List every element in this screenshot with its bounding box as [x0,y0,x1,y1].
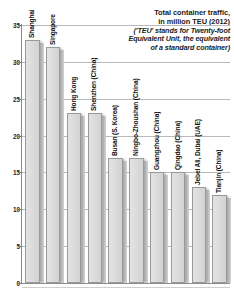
y-tick-label-35: 35 [0,22,20,29]
bar-category-label: Busan (S. Korea) [111,105,118,156]
bar-category-label: Ningbo-Zhoushan (China) [132,78,139,156]
bar[interactable] [192,187,207,283]
y-tick-label-15: 15 [0,169,20,176]
bar-group: Shanghai [22,25,43,283]
bar-group: Hong Kong [64,25,85,283]
bar[interactable] [25,40,40,283]
gridline-0 [22,283,230,284]
bar-category-label: Shanghai [28,9,35,37]
bar-category-label: Tianjin (China) [215,149,222,192]
bar[interactable] [108,158,123,283]
bar-category-label: Shenzhen (China) [90,58,97,111]
y-tick-label-10: 10 [0,206,20,213]
bar[interactable] [171,172,186,283]
bar-group: Qingdao (China) [168,25,189,283]
bar-category-label: Hong Kong [70,77,77,111]
bar[interactable] [212,195,227,283]
bar-shadow [227,198,231,283]
y-tick-label-30: 30 [0,58,20,65]
plot-area: ShanghaiSingaporeHong KongShenzhen (Chin… [22,25,230,283]
footer-rule [22,287,230,288]
bar[interactable] [88,113,103,283]
container-traffic-bar-chart: Total container traffic, in million TEU … [0,0,234,295]
bar-group: Guangzhou (China) [147,25,168,283]
bar-category-label: Guangzhou (China) [153,112,160,170]
bar-category-label: Qingdao (China) [174,121,181,170]
bar-group: Ningbo-Zhoushan (China) [126,25,147,283]
bar-group: Singapore [43,25,64,283]
bar-group: Jebel Ali, Dubai (UAE) [188,25,209,283]
chart-title: Total container traffic, in million TEU … [104,9,230,26]
bar[interactable] [129,158,144,283]
bar[interactable] [150,172,165,283]
bar-category-label: Jebel Ali, Dubai (UAE) [194,119,201,185]
y-tick-label-5: 5 [0,243,20,250]
bar-group: Busan (S. Korea) [105,25,126,283]
bar-category-label: Singapore [49,14,56,45]
bar[interactable] [46,47,61,283]
y-tick-label-0: 0 [0,280,20,287]
bar-group: Tianjin (China) [209,25,230,283]
y-tick-label-25: 25 [0,95,20,102]
bar[interactable] [67,113,82,283]
y-tick-label-20: 20 [0,132,20,139]
bar-group: Shenzhen (China) [84,25,105,283]
